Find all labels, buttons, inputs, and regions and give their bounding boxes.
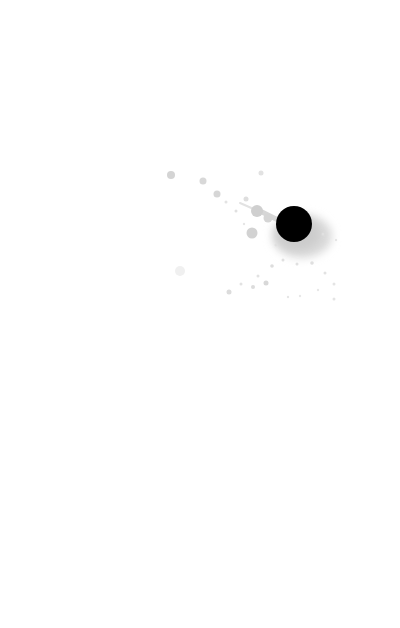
ink-splatter-canvas (0, 0, 400, 628)
splatter-droplet (251, 285, 255, 289)
splatter-droplet (264, 214, 273, 223)
splatter-droplet (167, 171, 175, 179)
splatter-droplet (296, 263, 299, 266)
splatter-droplet (175, 266, 185, 276)
splatter-droplet (270, 264, 274, 268)
splatter-droplet (322, 233, 325, 236)
black-ink-dot (276, 206, 312, 242)
splatter-droplet (244, 197, 249, 202)
splatter-droplet (324, 272, 327, 275)
background (0, 0, 400, 628)
splatter-droplet (335, 239, 337, 241)
splatter-droplet (200, 178, 207, 185)
splatter-droplet (317, 289, 319, 291)
splatter-droplet (240, 283, 243, 286)
splatter-droplet (299, 295, 301, 297)
splatter-droplet (247, 228, 258, 239)
ink-blot (276, 206, 312, 242)
splatter-droplet (257, 275, 260, 278)
splatter-droplet (225, 201, 228, 204)
splatter-droplet (243, 223, 245, 225)
splatter-droplet (214, 191, 221, 198)
splatter-droplet (287, 296, 289, 298)
splatter-droplet (251, 205, 263, 217)
splatter-droplet (310, 261, 314, 265)
splatter-droplet (333, 298, 336, 301)
ink-splatter-illustration (0, 0, 400, 628)
splatter-droplet (282, 259, 285, 262)
splatter-droplet (227, 290, 232, 295)
splatter-droplet (235, 210, 238, 213)
splatter-droplet (264, 281, 269, 286)
splatter-droplet (333, 283, 336, 286)
splatter-droplet (275, 244, 278, 247)
splatter-droplet (259, 171, 264, 176)
